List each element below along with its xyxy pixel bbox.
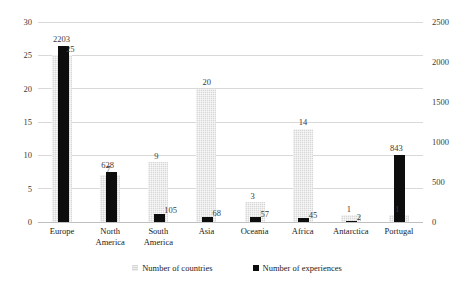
value-label-countries: 1 <box>395 205 399 214</box>
bars-layer: 2522037628910520683571445121843 <box>38 22 423 222</box>
category-label-oceania: Oceania <box>231 226 279 237</box>
left-axis-tick-30: 30 <box>24 18 33 27</box>
left-axis: 051015202530 <box>10 22 32 222</box>
value-label-experiences: 68 <box>212 209 221 218</box>
countries-swatch-icon <box>132 265 138 271</box>
right-axis-tick-500: 500 <box>432 178 445 187</box>
bar-group: 7628 <box>86 22 134 222</box>
category-label-portugal: Portugal <box>375 226 423 237</box>
right-axis: 05001000150020002500 <box>432 22 466 222</box>
value-label-experiences: 2 <box>357 213 361 222</box>
category-label-antarctica: Antarctica <box>327 226 375 237</box>
left-axis-tick-5: 5 <box>28 185 32 194</box>
left-axis-tick-20: 20 <box>24 85 33 94</box>
left-axis-tick-25: 25 <box>24 51 33 60</box>
category-axis: EuropeNorth AmericaSouth AmericaAsiaOcea… <box>38 226 423 258</box>
bar-experiences <box>298 218 309 222</box>
bar-experiences <box>58 46 69 222</box>
bar-chart: 051015202530 05001000150020002500 252203… <box>0 0 474 293</box>
category-label-europe: Europe <box>38 226 86 237</box>
legend-item[interactable]: Number of experiences <box>253 263 342 273</box>
bar-experiences <box>154 214 165 222</box>
value-label-countries: 9 <box>154 152 158 161</box>
bar-countries <box>196 89 216 222</box>
left-axis-tick-10: 10 <box>24 151 33 160</box>
bar-group: 12 <box>327 22 375 222</box>
right-axis-tick-0: 0 <box>432 218 436 227</box>
legend-item[interactable]: Number of countries <box>132 263 212 273</box>
value-label-experiences: 843 <box>390 144 403 153</box>
value-label-countries: 14 <box>299 118 308 127</box>
bar-experiences <box>202 217 213 222</box>
value-label-experiences: 45 <box>309 211 318 220</box>
value-label-experiences: 2203 <box>53 35 70 44</box>
right-axis-tick-1000: 1000 <box>432 138 449 147</box>
value-label-countries: 3 <box>251 192 255 201</box>
category-label-north-america: North America <box>86 226 134 248</box>
value-label-experiences: 628 <box>101 161 114 170</box>
value-label-experiences: 105 <box>164 206 177 215</box>
bar-group: 2068 <box>182 22 230 222</box>
bar-group: 1843 <box>375 22 423 222</box>
bar-experiences <box>346 221 357 223</box>
category-label-asia: Asia <box>182 226 230 237</box>
legend-label: Number of countries <box>142 263 212 273</box>
bar-group: 1445 <box>279 22 327 222</box>
left-axis-tick-0: 0 <box>28 218 32 227</box>
chart-legend: Number of countriesNumber of experiences <box>0 263 474 273</box>
bar-group: 252203 <box>38 22 86 222</box>
category-label-africa: Africa <box>279 226 327 237</box>
bar-group: 9105 <box>134 22 182 222</box>
experiences-swatch-icon <box>253 265 259 271</box>
value-label-experiences: 57 <box>261 210 270 219</box>
right-axis-tick-2500: 2500 <box>432 18 449 27</box>
category-label-south-america: South America <box>134 226 182 248</box>
bar-experiences <box>106 172 117 222</box>
right-axis-tick-2000: 2000 <box>432 58 449 67</box>
value-label-countries: 1 <box>347 205 351 214</box>
bar-countries <box>293 129 313 222</box>
bar-experiences <box>250 217 261 222</box>
bar-group: 357 <box>231 22 279 222</box>
legend-label: Number of experiences <box>263 263 342 273</box>
value-label-countries: 20 <box>202 78 211 87</box>
value-label-countries: 25 <box>66 45 75 54</box>
left-axis-tick-15: 15 <box>24 118 33 127</box>
right-axis-tick-1500: 1500 <box>432 98 449 107</box>
